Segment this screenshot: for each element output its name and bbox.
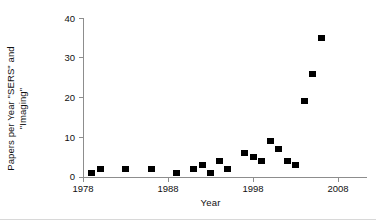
data-point [216, 158, 223, 164]
data-point [88, 170, 95, 176]
scatter-plot-area: Papers per Year "SERS" and"Imaging" 40 3… [0, 0, 376, 222]
y-tick-20 [79, 97, 83, 98]
y-axis-line [83, 18, 84, 177]
data-point [292, 162, 299, 168]
y-tick-label-40: 40 [53, 13, 75, 24]
x-tick-2008 [338, 178, 339, 182]
x-tick-label-2008: 2008 [318, 183, 358, 194]
y-tick-label-20: 20 [53, 92, 75, 103]
data-point [258, 158, 265, 164]
x-axis-line [83, 177, 367, 178]
x-tick-1988 [168, 178, 169, 182]
data-point [190, 166, 197, 172]
data-point [207, 170, 214, 176]
data-point [267, 138, 274, 144]
data-point [148, 166, 155, 172]
x-axis-label: Year [78, 197, 343, 208]
data-point [241, 150, 248, 156]
x-tick-1978 [83, 178, 84, 182]
data-point [301, 98, 308, 104]
y-tick-label-10: 10 [53, 132, 75, 143]
data-point [275, 146, 282, 152]
x-tick-label-1978: 1978 [63, 183, 103, 194]
chart-figure: Papers per Year "SERS" and"Imaging" 40 3… [0, 0, 376, 222]
data-point [224, 166, 231, 172]
y-tick-label-0: 0 [53, 171, 75, 182]
data-point [309, 71, 316, 77]
y-tick-30 [79, 57, 83, 58]
x-tick-label-1988: 1988 [148, 183, 188, 194]
y-tick-40 [79, 18, 83, 19]
y-tick-10 [79, 137, 83, 138]
data-point [199, 162, 206, 168]
data-point [284, 158, 291, 164]
figure-bottom-rule [0, 219, 376, 220]
data-point [122, 166, 129, 172]
data-point [173, 170, 180, 176]
data-point [250, 154, 257, 160]
y-axis-label: Papers per Year "SERS" and"Imaging" [5, 21, 28, 197]
x-tick-label-1998: 1998 [233, 183, 273, 194]
y-tick-label-30: 30 [53, 52, 75, 63]
data-point [97, 166, 104, 172]
x-tick-1998 [253, 178, 254, 182]
data-point [318, 35, 325, 41]
